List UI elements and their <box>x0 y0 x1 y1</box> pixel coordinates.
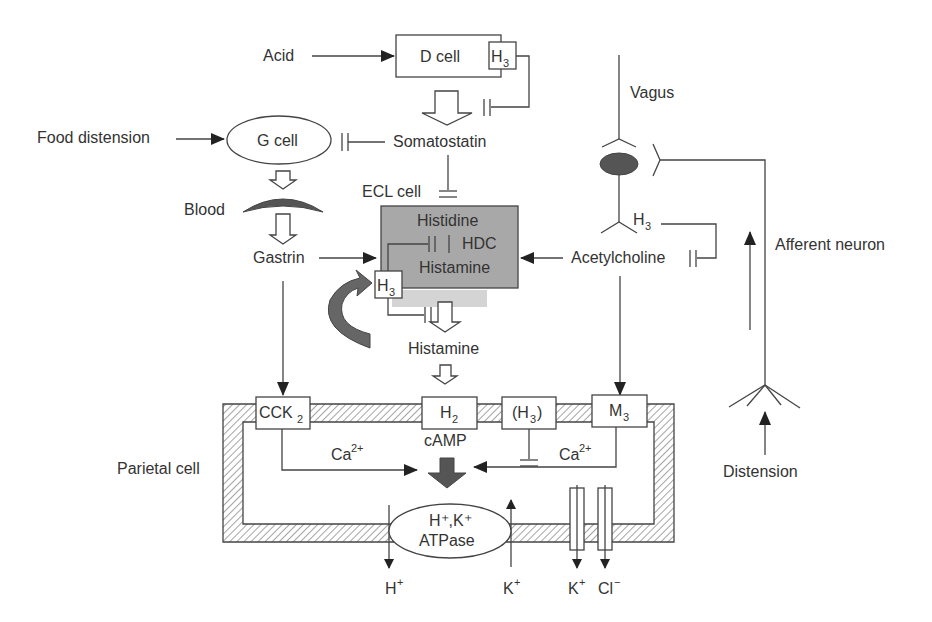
cl-ion-label: Cl <box>598 580 613 597</box>
cholinergic-terminal <box>601 222 637 233</box>
proton-pump: H⁺,K⁺ ATPase <box>389 504 511 558</box>
m3-signal-arrow <box>474 427 616 467</box>
cl-channel <box>598 485 612 568</box>
svg-text:+: + <box>579 576 585 588</box>
ca-right-label: Ca <box>559 446 580 463</box>
blood-label: Blood <box>184 201 225 218</box>
histidine-label: Histidine <box>417 212 478 229</box>
nerve-h3-sub: 3 <box>645 220 651 232</box>
camp-signal-arrow <box>428 458 466 488</box>
blood-to-gastrin-arrow <box>270 214 296 244</box>
svg-text:CCK: CCK <box>259 404 293 421</box>
histamine-to-h2-arrow <box>433 365 457 384</box>
pump-line2: ATPase <box>419 532 475 549</box>
gastrin-label: Gastrin <box>253 249 305 266</box>
g-cell-label: G cell <box>257 132 298 149</box>
ecl-h3-receptor: H 3 <box>375 271 402 298</box>
parietal-cell-label: Parietal cell <box>117 460 200 477</box>
acid-label: Acid <box>263 47 294 64</box>
cck2-receptor: CCK 2 <box>256 397 310 429</box>
ecl-cell-label: ECL cell <box>362 183 421 200</box>
svg-text:3: 3 <box>389 286 395 298</box>
ganglion-cell-icon <box>600 153 638 175</box>
gastric-acid-regulation-diagram: Acid D cell H 3 Somatostatin Food disten… <box>0 0 932 622</box>
d-cell: D cell H 3 <box>396 35 516 77</box>
svg-text:H: H <box>440 404 452 421</box>
h3-parietal-receptor: (H 3 ) <box>502 397 556 429</box>
hdc-label: HDC <box>462 235 497 252</box>
svg-text:): ) <box>537 404 542 421</box>
somatostatin-label: Somatostatin <box>393 133 486 150</box>
svg-text:(H: (H <box>512 404 529 421</box>
m3-receptor: M 3 <box>592 395 647 427</box>
stretch-receptor-icon <box>729 385 800 408</box>
food-distension-label: Food distension <box>37 129 150 146</box>
d-cell-h3-receptor: H 3 <box>489 42 516 69</box>
h3-inhibits-ach-line <box>661 224 716 258</box>
d-cell-label: D cell <box>420 48 460 65</box>
svg-text:−: − <box>614 576 620 588</box>
svg-text:H: H <box>377 277 389 294</box>
svg-text:H: H <box>491 48 503 65</box>
svg-text:+: + <box>514 576 520 588</box>
ca-left-sup: 2+ <box>351 442 364 454</box>
svg-text:+: + <box>397 576 403 588</box>
vagus-label: Vagus <box>630 84 674 101</box>
k-out-ion-label: K <box>568 580 579 597</box>
gcell-secretes-arrow <box>270 171 296 189</box>
svg-text:3: 3 <box>530 413 536 425</box>
h2-receptor: H 2 <box>422 397 477 429</box>
g-cell: G cell <box>227 116 331 164</box>
afferent-neuron-line <box>660 160 765 385</box>
pump-line1: H⁺,K⁺ <box>429 512 472 529</box>
acetylcholine-label: Acetylcholine <box>571 249 665 266</box>
blood-vessel-icon <box>243 199 323 212</box>
h-ion-label: H <box>385 580 397 597</box>
autocrine-feedback-arrow <box>328 270 372 348</box>
ca-right-sup: 2+ <box>579 442 592 454</box>
svg-text:M: M <box>609 402 622 419</box>
ecl-histamine-label: Histamine <box>419 259 490 276</box>
svg-text:2: 2 <box>452 413 458 425</box>
camp-label: cAMP <box>424 432 467 449</box>
vagus-synapse-terminal <box>602 139 636 147</box>
svg-text:2: 2 <box>297 413 303 425</box>
dcell-secretes-arrow <box>422 91 472 125</box>
distension-label: Distension <box>723 463 798 480</box>
ca-left-label: Ca <box>331 446 352 463</box>
k-in-ion-label: K <box>503 580 514 597</box>
afferent-synapse-terminal <box>653 144 660 176</box>
k-channel <box>570 485 584 568</box>
afferent-neuron-label: Afferent neuron <box>775 236 885 253</box>
nerve-h3-label: H <box>633 211 645 228</box>
svg-text:3: 3 <box>623 411 629 423</box>
svg-text:3: 3 <box>503 57 509 69</box>
histamine-label: Histamine <box>408 340 479 357</box>
